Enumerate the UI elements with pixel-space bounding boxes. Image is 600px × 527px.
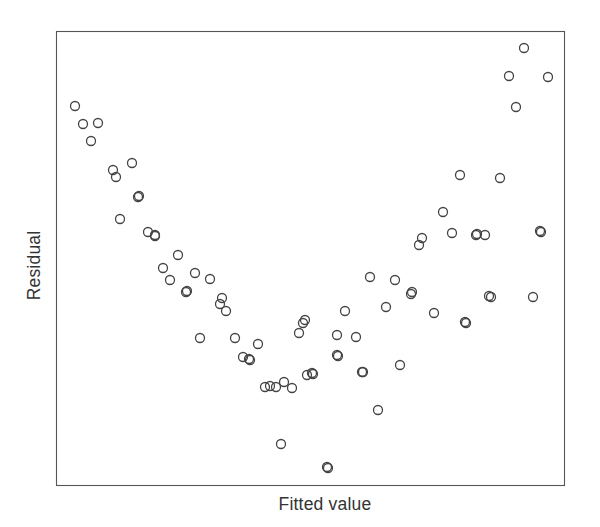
plot-canvas — [0, 0, 600, 527]
plot-background — [0, 0, 600, 527]
y-axis-label: Residual — [24, 206, 45, 326]
residual-scatter-figure: Fitted value Residual — [0, 0, 600, 527]
x-axis-label: Fitted value — [0, 494, 600, 515]
